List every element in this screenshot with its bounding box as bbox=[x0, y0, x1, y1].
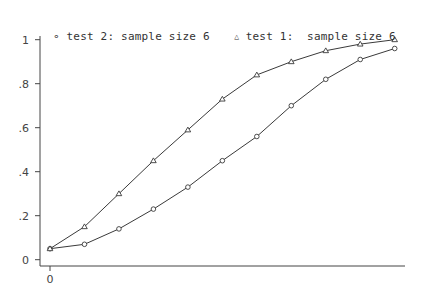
circle-marker-icon bbox=[82, 242, 87, 247]
circle-marker-icon bbox=[255, 134, 260, 139]
legend-label-test-2: test 2: sample size 6 bbox=[67, 30, 210, 43]
circle-marker-icon bbox=[220, 158, 225, 163]
triangle-marker-icon bbox=[220, 96, 226, 101]
y-tick-label: .2 bbox=[19, 210, 30, 223]
series-test-1 bbox=[47, 37, 397, 251]
circle-marker-icon bbox=[289, 103, 294, 108]
legend-item-test-1: △ test 1: sample size 6 bbox=[221, 13, 396, 29]
legend-label-test-1: test 1: sample size 6 bbox=[246, 30, 396, 43]
series-test-2 bbox=[48, 46, 397, 251]
circle-marker-icon bbox=[186, 185, 191, 190]
triangle-marker-icon: △ bbox=[234, 32, 239, 41]
x-tick-label: 0 bbox=[47, 273, 54, 286]
circle-marker-icon bbox=[323, 77, 328, 82]
y-tick-label: 1 bbox=[22, 34, 29, 47]
circle-marker-icon bbox=[392, 46, 397, 51]
y-tick-label: .8 bbox=[19, 78, 30, 91]
legend-item-test-2: ∘ test 2: sample size 6 bbox=[40, 13, 210, 29]
circle-marker-icon: ∘ bbox=[53, 30, 60, 43]
x-axis: 0 bbox=[40, 266, 405, 286]
circle-marker-icon bbox=[117, 227, 122, 232]
y-axis: 1.8.6.4.20 bbox=[19, 34, 41, 267]
circle-marker-icon bbox=[358, 57, 363, 62]
series-layer bbox=[47, 37, 397, 251]
y-tick-label: .6 bbox=[19, 122, 30, 135]
circle-marker-icon bbox=[151, 207, 156, 212]
y-tick-label: 0 bbox=[22, 254, 29, 267]
y-tick-label: .4 bbox=[19, 166, 30, 179]
